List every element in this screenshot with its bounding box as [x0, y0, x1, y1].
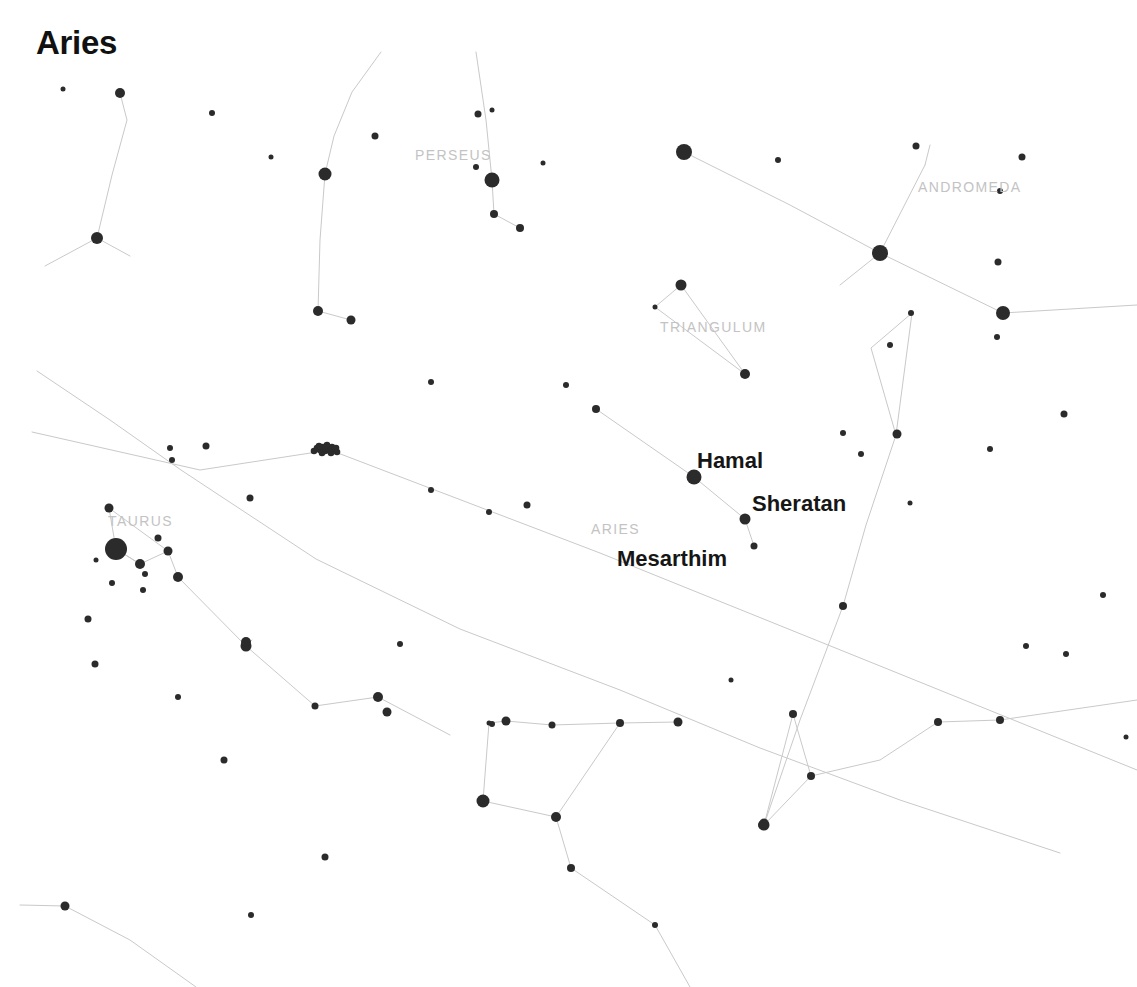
star-point	[592, 405, 600, 413]
constellation-line	[871, 313, 912, 435]
star-point	[652, 922, 658, 928]
star-point	[674, 718, 683, 727]
star-point	[1124, 735, 1129, 740]
star-point	[115, 88, 125, 98]
star-point	[485, 173, 500, 188]
constellation-lines-group	[20, 52, 1137, 987]
constellation-line	[97, 93, 127, 238]
named-star-mesarthim	[751, 543, 758, 550]
star-point	[221, 757, 228, 764]
constellation-line	[684, 152, 880, 253]
star-point	[567, 864, 575, 872]
star-point	[997, 188, 1003, 194]
star-point	[887, 342, 893, 348]
star-point	[428, 379, 434, 385]
constellation-line	[556, 723, 620, 817]
star-point	[428, 487, 434, 493]
star-point	[908, 501, 913, 506]
star-point	[1019, 154, 1026, 161]
star-point	[676, 280, 687, 291]
star-point	[92, 661, 99, 668]
constellation-line	[764, 714, 811, 825]
star-point	[135, 559, 145, 569]
constellation-line	[32, 432, 330, 470]
star-point	[653, 305, 658, 310]
constellation-line	[494, 214, 520, 228]
star-point	[105, 538, 127, 560]
star-point	[563, 382, 569, 388]
constellation-line	[325, 52, 381, 174]
star-point	[490, 210, 498, 218]
sky-map-svg	[0, 0, 1137, 987]
star-point	[142, 571, 148, 577]
constellation-line	[925, 145, 930, 165]
star-point	[913, 143, 920, 150]
star-point	[241, 637, 251, 647]
star-point	[490, 108, 495, 113]
constellation-line	[37, 371, 1060, 853]
star-point	[61, 902, 70, 911]
constellation-line	[483, 801, 556, 817]
star-point	[313, 306, 323, 316]
constellation-line	[556, 817, 690, 987]
star-point	[987, 446, 993, 452]
star-point	[487, 721, 492, 726]
star-point	[486, 509, 492, 515]
star-point	[175, 694, 181, 700]
star-point	[908, 310, 914, 316]
star-point	[760, 819, 769, 828]
star-point	[61, 87, 66, 92]
cluster-star-pleiades	[328, 450, 335, 457]
named-star-hamal	[687, 470, 702, 485]
constellation-line	[620, 722, 678, 723]
constellation-line	[20, 905, 196, 987]
constellation-line	[483, 721, 552, 801]
star-point	[383, 708, 392, 717]
star-point	[789, 710, 797, 718]
star-point	[996, 306, 1010, 320]
star-point	[109, 580, 115, 586]
star-point	[473, 164, 479, 170]
constellation-line	[552, 723, 620, 725]
star-point	[740, 369, 750, 379]
star-point	[85, 616, 92, 623]
star-chart-canvas: Aries PERSEUSANDROMEDATRIANGULUMTAURUSAR…	[0, 0, 1137, 987]
star-point	[995, 259, 1002, 266]
star-point	[502, 717, 511, 726]
star-point	[893, 430, 902, 439]
star-point	[524, 502, 531, 509]
star-point	[839, 602, 847, 610]
star-point	[551, 812, 561, 822]
constellation-line	[880, 165, 925, 253]
star-point	[541, 161, 546, 166]
star-point	[807, 772, 815, 780]
constellation-line	[655, 285, 745, 374]
star-point	[167, 445, 173, 451]
star-point	[319, 168, 332, 181]
star-point	[1063, 651, 1069, 657]
star-point	[164, 547, 173, 556]
star-point	[372, 133, 379, 140]
constellation-line	[45, 238, 97, 266]
star-point	[516, 224, 524, 232]
star-point	[94, 558, 99, 563]
constellation-line	[596, 409, 694, 477]
star-point	[173, 572, 183, 582]
star-point	[996, 716, 1004, 724]
page-title: Aries	[36, 24, 117, 62]
constellation-line	[178, 577, 378, 706]
star-point	[475, 111, 482, 118]
star-point	[248, 912, 254, 918]
star-point	[269, 155, 274, 160]
constellation-line	[318, 174, 325, 311]
star-point	[1023, 643, 1029, 649]
star-point	[397, 641, 403, 647]
constellation-line	[880, 253, 1003, 313]
star-point	[729, 678, 734, 683]
cluster-star-pleiades	[334, 449, 341, 456]
star-point	[169, 457, 175, 463]
star-point	[140, 587, 146, 593]
constellation-line	[694, 477, 745, 519]
constellation-line	[764, 700, 1137, 825]
star-point	[91, 232, 103, 244]
